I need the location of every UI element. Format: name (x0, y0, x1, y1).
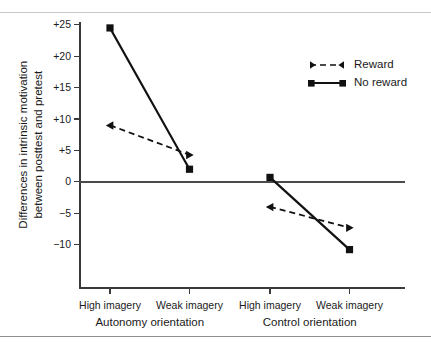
data-point-no-reward[interactable] (186, 166, 193, 173)
data-point-reward[interactable] (186, 151, 194, 159)
legend-item-reward[interactable]: Reward (307, 56, 407, 74)
figure-canvas: Differences in intrinsic motivation betw… (0, 0, 431, 348)
series-line-reward (270, 207, 350, 228)
reward-series-marker-icon (307, 58, 347, 72)
legend-label-reward: Reward (354, 59, 394, 71)
data-point-reward[interactable] (106, 121, 114, 129)
data-point-reward[interactable] (266, 203, 274, 211)
data-point-reward[interactable] (346, 224, 354, 232)
legend: Reward No reward (307, 56, 407, 92)
data-point-no-reward[interactable] (106, 24, 113, 31)
series-line-reward (110, 125, 190, 155)
series-line-no-reward (270, 177, 350, 249)
data-point-no-reward[interactable] (346, 246, 353, 253)
data-point-no-reward[interactable] (266, 174, 273, 181)
legend-item-no-reward[interactable]: No reward (307, 74, 407, 92)
data-series-layer (0, 0, 431, 348)
series-line-no-reward (110, 28, 190, 169)
no-reward-series-marker-icon (307, 76, 347, 90)
legend-label-no-reward: No reward (354, 77, 407, 89)
